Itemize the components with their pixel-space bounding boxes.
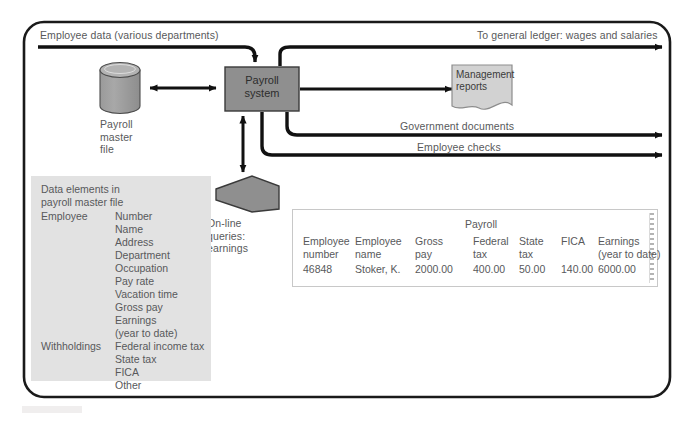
table-header-cell: Earnings (year to date) <box>598 235 660 260</box>
table-header-cell: Employee name <box>355 235 402 260</box>
data-group-label-withholdings: Withholdings <box>41 340 101 353</box>
data-elements-panel: Data elements in payroll master file Emp… <box>31 176 211 381</box>
page-artifact <box>22 406 82 413</box>
data-group-label-employee: Employee <box>41 210 88 223</box>
table-row: 50.00 <box>519 263 545 276</box>
table-row: 2000.00 <box>415 263 453 276</box>
table-header-cell: Employee number <box>303 235 350 260</box>
data-elements-panel-title: Data elements in payroll master file <box>41 183 123 208</box>
payroll-master-file-shape <box>100 63 140 114</box>
table-row: 6000.00 <box>598 263 636 276</box>
table-row: 140.00 <box>561 263 593 276</box>
table-header-cell: Gross pay <box>415 235 443 260</box>
table-row: 400.00 <box>473 263 505 276</box>
table-group-header-payroll: Payroll <box>465 218 497 230</box>
diagram-canvas: Employee data (various departments) To g… <box>0 0 697 421</box>
node-label-online-queries: On-line queries: earnings <box>207 217 248 255</box>
node-label-payroll-system: Payroll system <box>226 74 298 100</box>
data-group-items-withholdings: Federal income tax State tax FICA Other <box>115 340 204 392</box>
node-label-payroll-master-file: Payroll master file <box>100 118 133 156</box>
flow-general-ledger <box>280 47 662 66</box>
payroll-record-table: Payroll Employee number Employee name Gr… <box>292 209 658 287</box>
flow-label-government-documents: Government documents <box>400 120 514 133</box>
table-row: Stoker, K. <box>355 263 401 276</box>
node-label-management-reports: Management reports <box>456 69 514 93</box>
flow-label-employee-data: Employee data (various departments) <box>40 29 219 42</box>
flow-label-general-ledger: To general ledger: wages and salaries <box>477 29 658 42</box>
data-group-items-employee: Number Name Address Department Occupatio… <box>115 210 178 340</box>
table-row: 46848 <box>303 263 332 276</box>
table-header-cell: Federal tax <box>473 235 509 260</box>
table-header-cell: State tax <box>519 235 544 260</box>
flow-employee-data <box>38 47 255 62</box>
table-header-cell: FICA <box>561 235 585 248</box>
flow-label-employee-checks: Employee checks <box>417 141 501 154</box>
online-queries-shape <box>216 176 279 212</box>
